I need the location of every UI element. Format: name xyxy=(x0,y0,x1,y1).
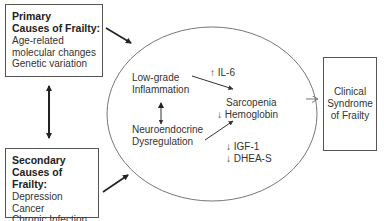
secondary-causes-box: Secondary Causes of Frailty: Depression … xyxy=(5,148,99,218)
hemoglobin-label: ↓ Hemoglobin xyxy=(217,109,278,121)
neuroendocrine-line2: Dysregulation xyxy=(132,136,193,148)
primary-causes-box: Primary Causes of Frailty: Age-related m… xyxy=(5,4,103,77)
arrow-primary-to-circle xyxy=(106,28,131,43)
secondary-title-line2: Causes of Frailty: xyxy=(12,166,98,190)
primary-item: molecular changes xyxy=(12,47,102,59)
primary-item: Genetic variation xyxy=(12,58,102,70)
clinical-syndrome-label: Clinical Syndrome of Frailty xyxy=(327,86,373,122)
primary-item: Age-related xyxy=(12,35,102,47)
secondary-item: Chronic Infection xyxy=(12,214,98,221)
low-grade-line1: Low-grade xyxy=(132,72,179,84)
primary-title-line2: Causes of Frailty: xyxy=(12,22,102,34)
neuroendocrine-line1: Neuroendocrine xyxy=(132,124,203,136)
low-grade-line2: Inflammation xyxy=(132,84,189,96)
secondary-item: Depression xyxy=(12,191,98,203)
igf1-label: ↓ IGF-1 xyxy=(226,141,259,153)
il6-label: ↑ IL-6 xyxy=(210,67,235,79)
primary-title-line1: Primary xyxy=(12,10,102,22)
clinical-syndrome-box: Clinical Syndrome of Frailty xyxy=(323,57,377,151)
arrow-secondary-to-circle xyxy=(103,175,128,192)
sarcopenia-label: Sarcopenia xyxy=(226,97,277,109)
dheas-label: ↓ DHEA-S xyxy=(226,153,272,165)
central-circle xyxy=(107,27,317,201)
secondary-title-line1: Secondary xyxy=(12,154,98,166)
secondary-item: Cancer xyxy=(12,203,98,215)
arrow-neuroendocrine-to-sarcopenia xyxy=(205,121,233,140)
